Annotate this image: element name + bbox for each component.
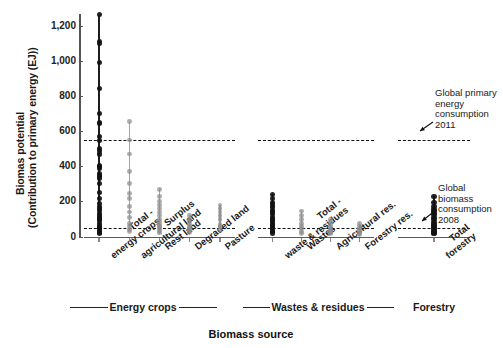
y-tick-label: 200 [59, 196, 76, 206]
data-point [431, 230, 436, 235]
group-label: Forestry [413, 301, 455, 313]
y-tick-label: 1,200 [51, 21, 76, 31]
data-point [127, 210, 132, 215]
data-point [127, 204, 132, 209]
x-tick-mark [433, 238, 434, 242]
group-label: Wastes & residues [272, 301, 365, 313]
y-tick-label: 600 [59, 126, 76, 136]
data-point [127, 169, 132, 174]
chart-figure: Biomas potential (Contribution to primar… [0, 0, 503, 348]
reference-annotation: Globalbiomassconsumption2008 [438, 183, 492, 225]
data-point [218, 227, 223, 232]
x-tick-mark [330, 238, 331, 242]
group-bracket-left [70, 307, 108, 308]
group-bracket-right [179, 307, 217, 308]
data-point [127, 191, 132, 196]
x-axis-title: Biomass source [209, 328, 294, 340]
data-point [431, 194, 436, 199]
data-point [127, 152, 132, 157]
data-point [97, 181, 102, 186]
group-bracket-left [243, 307, 270, 308]
y-axis-title-line1: Biomas potential [14, 112, 26, 195]
x-tick-mark [272, 238, 273, 242]
reference-annotation-line: consumption [438, 204, 492, 215]
data-point [127, 138, 132, 143]
reference-annotation-line: 2011 [435, 120, 497, 131]
reference-line [258, 140, 374, 141]
x-tick-mark [159, 238, 160, 242]
data-point [97, 111, 102, 116]
reference-annotation: Global primaryenergyconsumption2011 [435, 88, 497, 130]
y-tick-label: 400 [59, 161, 76, 171]
reference-annotation-line: consumption [435, 109, 497, 120]
data-point [127, 229, 132, 234]
data-point [97, 138, 102, 143]
data-point [97, 60, 102, 65]
data-point [97, 230, 102, 235]
reference-annotation-line: 2008 [438, 215, 492, 226]
data-point [97, 165, 102, 170]
x-tick-mark [301, 238, 302, 242]
reference-annotation-line: Global primary [435, 88, 497, 99]
data-point [157, 194, 162, 199]
y-tick-label: 0 [70, 232, 76, 242]
data-point [97, 86, 102, 91]
data-point [127, 119, 132, 124]
data-point [187, 230, 192, 235]
data-point [97, 121, 102, 126]
reference-line [398, 140, 470, 141]
data-point [97, 190, 102, 195]
reference-line [84, 140, 235, 141]
reference-annotation-line: Global [438, 183, 492, 194]
y-tick-label: 800 [59, 91, 76, 101]
x-tick-mark [189, 238, 190, 242]
group-label: Energy crops [110, 301, 177, 313]
x-tick-mark [219, 238, 220, 242]
y-tick-label: 1,000 [51, 56, 76, 66]
data-point [127, 196, 132, 201]
data-point [127, 215, 132, 220]
data-point [97, 151, 102, 156]
x-tick-mark [98, 238, 99, 242]
y-axis-title-line2: (Contribution to primary energy (EJ)) [26, 47, 38, 228]
data-point [157, 187, 162, 192]
data-point [97, 12, 102, 17]
data-point [357, 232, 362, 237]
data-point [127, 181, 132, 186]
group-bracket-right [367, 307, 394, 308]
y-tick-group: 02004006008001,0001,200 [40, 0, 76, 348]
x-tick-mark [359, 238, 360, 242]
x-tick-mark [129, 238, 130, 242]
y-axis-line [79, 14, 81, 238]
data-point [97, 41, 102, 46]
data-point [270, 230, 275, 235]
